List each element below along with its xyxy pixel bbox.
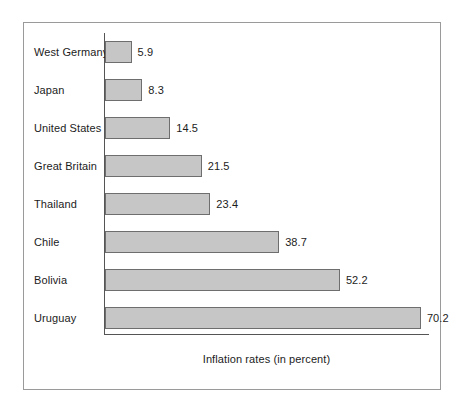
value-label: 21.5 — [208, 160, 230, 172]
bar — [105, 269, 340, 291]
figure-border: West Germany 5.9 Japan 8.3 United States… — [23, 22, 441, 390]
category-label: United States — [34, 122, 101, 134]
category-label: Bolivia — [34, 274, 67, 286]
category-label: Great Britain — [34, 160, 97, 172]
value-label: 8.3 — [148, 84, 164, 96]
bar — [105, 193, 210, 215]
bar — [105, 41, 132, 63]
category-label: Thailand — [34, 198, 77, 210]
category-label: West Germany — [34, 46, 108, 58]
x-axis-line — [104, 334, 429, 335]
x-axis-title: Inflation rates (in percent) — [104, 353, 429, 365]
value-label: 5.9 — [138, 46, 154, 58]
value-label: 14.5 — [176, 122, 198, 134]
category-label: Japan — [34, 84, 64, 96]
plot-area: West Germany 5.9 Japan 8.3 United States… — [24, 23, 442, 391]
category-label: Chile — [34, 236, 60, 248]
bar — [105, 117, 170, 139]
value-label: 38.7 — [285, 236, 307, 248]
bar — [105, 307, 421, 329]
value-label: 52.2 — [346, 274, 368, 286]
bar — [105, 155, 202, 177]
bar — [105, 79, 142, 101]
category-label: Uruguay — [34, 312, 76, 324]
figure: West Germany 5.9 Japan 8.3 United States… — [0, 0, 463, 418]
bar — [105, 231, 279, 253]
value-label: 23.4 — [216, 198, 238, 210]
value-label: 70.2 — [427, 312, 449, 324]
